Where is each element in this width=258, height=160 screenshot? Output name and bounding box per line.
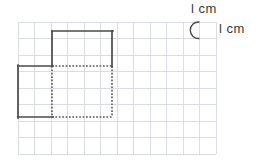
legend-side-label: l cm [219,22,245,35]
figure-container: l cm l cm [0,0,258,160]
legend-top-label: l cm [191,2,217,15]
